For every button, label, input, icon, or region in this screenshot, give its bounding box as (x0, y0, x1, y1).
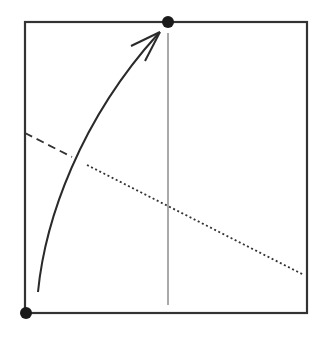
origami-diagram (0, 0, 323, 337)
hidden-fold-line (87, 165, 304, 275)
fold-arrow (38, 34, 158, 292)
paper-square (25, 22, 307, 313)
bottom-left-corner-point (20, 307, 32, 319)
valley-fold-line (25, 133, 72, 157)
top-center-point (162, 16, 174, 28)
